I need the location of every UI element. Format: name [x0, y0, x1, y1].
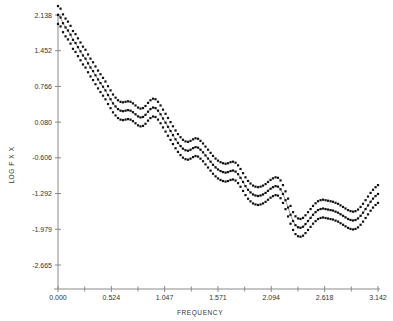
data-point-marker — [237, 182, 239, 184]
x-tick-label: 1.571 — [209, 294, 227, 301]
data-point-marker — [259, 186, 261, 188]
data-point-marker — [322, 207, 324, 209]
y-axis: 2.1381.4520.7660.080-0.606-1.292-1.979-2… — [32, 12, 61, 269]
data-point-marker — [329, 209, 331, 211]
data-point-marker — [214, 157, 216, 159]
data-point-marker — [284, 199, 286, 201]
data-point-marker — [154, 98, 156, 100]
data-point-marker — [209, 152, 211, 154]
data-point-marker — [174, 129, 176, 131]
data-point-marker — [109, 89, 111, 91]
data-point-marker — [224, 163, 226, 165]
data-point-marker — [64, 35, 66, 37]
data-point-marker — [277, 186, 279, 188]
data-point-marker — [249, 191, 251, 193]
data-point-marker — [114, 105, 116, 107]
data-point-marker — [352, 211, 354, 213]
data-point-marker — [359, 224, 361, 226]
data-point-marker — [74, 42, 76, 44]
data-point-marker — [317, 209, 319, 211]
data-point-marker — [97, 69, 99, 71]
data-point-marker — [94, 83, 96, 85]
data-point-marker — [274, 185, 276, 187]
data-point-marker — [239, 186, 241, 188]
y-tick-label: 1.452 — [34, 47, 52, 54]
data-point-marker — [372, 189, 374, 191]
data-point-marker — [172, 125, 174, 127]
data-point-marker — [364, 199, 366, 201]
data-point-marker — [362, 221, 364, 223]
data-point-marker — [274, 194, 276, 196]
data-point-marker — [294, 215, 296, 217]
data-point-marker — [194, 137, 196, 139]
data-point-marker — [159, 113, 161, 115]
data-point-marker — [284, 190, 286, 192]
data-point-marker — [104, 80, 106, 82]
data-point-marker — [84, 49, 86, 51]
data-point-marker — [89, 75, 91, 77]
data-point-marker — [334, 211, 336, 213]
data-point-marker — [222, 180, 224, 182]
data-point-marker — [132, 120, 134, 122]
data-point-marker — [269, 197, 271, 199]
y-tick-label: -1.292 — [32, 190, 52, 197]
data-point-marker — [82, 54, 84, 56]
data-point-marker — [234, 162, 236, 164]
data-point-marker — [147, 111, 149, 113]
data-point-marker — [242, 181, 244, 183]
data-point-marker — [257, 204, 259, 206]
data-point-marker — [299, 218, 301, 220]
y-tick-label: -0.606 — [32, 154, 52, 161]
data-point-marker — [367, 213, 369, 215]
data-point-marker — [319, 199, 321, 201]
data-point-marker — [279, 179, 281, 181]
data-point-marker — [317, 218, 319, 220]
x-axis: 0.0000.5241.0471.5712.0942.6183.142 — [49, 265, 387, 301]
data-point-marker — [162, 117, 164, 119]
data-point-marker — [62, 13, 64, 15]
data-point-marker — [119, 119, 121, 121]
data-point-marker — [189, 140, 191, 142]
data-point-marker — [84, 58, 86, 60]
data-point-marker — [327, 200, 329, 202]
data-point-marker — [352, 219, 354, 221]
data-point-marker — [332, 218, 334, 220]
data-point-marker — [202, 160, 204, 162]
data-point-marker — [64, 17, 66, 19]
data-point-marker — [139, 116, 141, 118]
data-point-marker — [324, 199, 326, 201]
data-point-marker — [302, 235, 304, 237]
data-point-marker — [377, 193, 379, 195]
data-point-marker — [172, 143, 174, 145]
data-point-marker — [247, 198, 249, 200]
data-point-marker — [67, 29, 69, 31]
data-point-marker — [202, 142, 204, 144]
data-point-marker — [102, 86, 104, 88]
data-point-marker — [257, 195, 259, 197]
data-point-marker — [332, 201, 334, 203]
data-point-marker — [359, 206, 361, 208]
data-point-marker — [139, 107, 141, 109]
data-point-marker — [262, 193, 264, 195]
data-point-marker — [262, 185, 264, 187]
data-point-marker — [117, 108, 119, 110]
data-point-marker — [74, 51, 76, 53]
data-point-marker — [114, 114, 116, 116]
data-point-marker — [137, 115, 139, 117]
data-point-marker — [309, 226, 311, 228]
data-point-marker — [177, 133, 179, 135]
data-point-marker — [314, 220, 316, 222]
data-point-marker — [124, 101, 126, 103]
data-point-marker — [122, 110, 124, 112]
data-point-marker — [162, 109, 164, 111]
data-point-marker — [322, 216, 324, 218]
data-point-marker — [229, 161, 231, 163]
data-point-marker — [352, 228, 354, 230]
data-point-marker — [249, 200, 251, 202]
data-point-marker — [169, 130, 171, 132]
data-point-marker — [314, 202, 316, 204]
data-point-marker — [242, 172, 244, 174]
data-point-marker — [252, 193, 254, 195]
data-point-marker — [87, 53, 89, 55]
data-point-marker — [57, 14, 59, 16]
